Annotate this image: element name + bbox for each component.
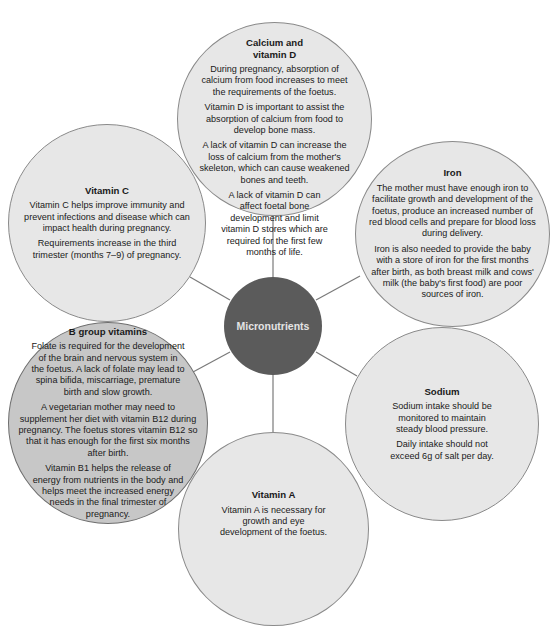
node-b-group-vitamins: B group vitamins Folate is required for … xyxy=(8,322,208,524)
node-text: Folate is required for the development o… xyxy=(17,341,199,398)
node-text: Sodium intake should be monitored to mai… xyxy=(386,401,498,435)
node-sodium: Sodium Sodium intake should be monitored… xyxy=(345,327,539,521)
node-text: Vitamin C helps improve immunity and pre… xyxy=(15,200,199,234)
node-iron: Iron The mother must have enough iron to… xyxy=(355,141,550,327)
node-vitamin-c: Vitamin C Vitamin C helps improve immuni… xyxy=(8,124,206,322)
node-text: A lack of vitamin D can increase the los… xyxy=(198,140,351,186)
node-title: Calcium and xyxy=(246,37,303,49)
node-text: Vitamin B1 helps the release of energy f… xyxy=(17,463,199,520)
node-calcium-vitamin-d: Calcium and vitamin D During pregnancy, … xyxy=(177,22,372,216)
node-title: Vitamin A xyxy=(252,489,296,501)
center-hub: Micronutrients xyxy=(224,277,322,375)
node-text: Requirements increase in the third trime… xyxy=(15,238,199,261)
connector-vitamin-c xyxy=(190,277,230,300)
node-text: A vegetarian mother may need to suppleme… xyxy=(17,402,199,459)
node-title: Vitamin C xyxy=(85,185,129,197)
node-text: Vitamin D is important to assist the abs… xyxy=(198,102,351,136)
node-vitamin-a: Vitamin A Vitamin A is necessary for gro… xyxy=(178,432,369,626)
node-text: A lack of vitamin D can affect foetal bo… xyxy=(198,190,351,258)
node-title: vitamin D xyxy=(253,49,296,61)
node-text: Vitamin A is necessary for growth and ey… xyxy=(219,505,328,539)
node-title: Iron xyxy=(443,167,461,179)
node-text: The mother must have enough iron to faci… xyxy=(368,183,537,240)
connector-sodium xyxy=(316,352,357,376)
node-text: During pregnancy, absorption of calcium … xyxy=(198,64,351,98)
node-title: B group vitamins xyxy=(69,326,147,338)
node-text: Iron is also needed to provide the baby … xyxy=(368,244,537,301)
center-label: Micronutrients xyxy=(237,320,310,332)
node-text: Daily intake should not exceed 6g of sal… xyxy=(386,439,498,462)
connector-iron xyxy=(316,276,360,300)
node-title: Sodium xyxy=(424,386,459,398)
